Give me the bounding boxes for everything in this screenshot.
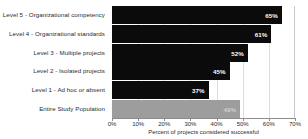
bar: 45%	[112, 62, 230, 80]
category-axis-labels: Level 5 - Organizational competency Leve…	[0, 6, 109, 118]
plot-area: 65%61%52%45%37%49%	[112, 6, 295, 118]
category-label: Entire Study Population	[39, 100, 105, 118]
x-axis-line	[112, 118, 295, 119]
x-axis-tick-label: 20%	[158, 121, 170, 127]
bar-row: 61%	[112, 25, 295, 43]
bar-value-label: 49%	[223, 106, 236, 113]
bar-chart: Level 5 - Organizational competency Leve…	[0, 0, 308, 139]
category-label: Level 3 - Multiple projects	[33, 44, 105, 62]
bar: 65%	[112, 6, 282, 24]
bar-row: 65%	[112, 6, 295, 24]
bar-row: 37%	[112, 81, 295, 99]
x-axis-tick-label: 30%	[184, 121, 196, 127]
bar-row: 45%	[112, 62, 295, 80]
bar-value-label: 65%	[265, 12, 278, 19]
category-label: Level 4 - Organizational standards	[9, 25, 105, 43]
x-axis-tick-label: 0%	[108, 121, 117, 127]
bar: 52%	[112, 44, 248, 62]
category-label: Level 2 - Isolated projects	[33, 62, 105, 80]
bar: 37%	[112, 81, 209, 99]
bar-value-label: 61%	[255, 31, 268, 38]
x-axis-tick-label: 40%	[211, 121, 223, 127]
bar-row: 49%	[112, 100, 295, 118]
x-axis-tick-label: 10%	[132, 121, 144, 127]
x-axis-tick-label: 70%	[289, 121, 301, 127]
bar-value-label: 37%	[192, 87, 205, 94]
bar: 49%	[112, 100, 240, 118]
x-axis-tick-label: 50%	[237, 121, 249, 127]
category-label: Level 5 - Organizational competency	[3, 6, 105, 24]
bar-value-label: 52%	[231, 50, 244, 57]
x-axis-title: Percent of projects considered successfu…	[112, 129, 295, 135]
x-axis-tick-label: 60%	[263, 121, 275, 127]
category-label: Level 1 - Ad hoc or absent	[32, 81, 105, 99]
bar-value-label: 45%	[213, 68, 226, 75]
bar: 61%	[112, 25, 271, 43]
bar-row: 52%	[112, 44, 295, 62]
